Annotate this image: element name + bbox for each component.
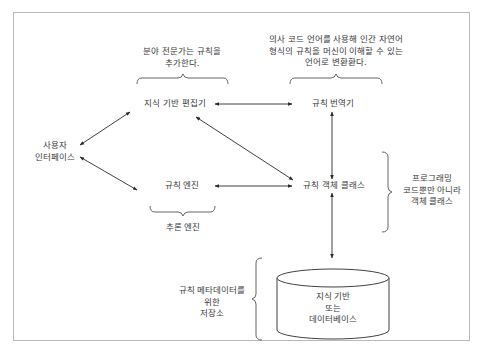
edge-ui-editor (80, 112, 130, 145)
brace-editor-note (137, 74, 228, 84)
inference-engine-label: 추론 엔진 (166, 222, 201, 234)
node-knowledge-editor: 지식 기반 편집기 (144, 98, 205, 110)
edge-ui-engine (80, 157, 137, 190)
brace-storage-note (252, 258, 262, 340)
editor-note: 분야 전문가는 규칙을 추가한다. (143, 46, 220, 69)
brace-object-class-note (382, 152, 392, 232)
node-database: 지식 기반 또는 데이터베이스 (309, 291, 357, 326)
node-user-interface: 사용자 인터페이스 (35, 140, 75, 163)
translator-note: 의사 코드 언어를 사용해 인간 자연어 형식의 규칙을 머신이 이해할 수 있… (269, 34, 403, 69)
object-class-note: 프로그래밍 코드뿐만 아니라 객체 클래스 (403, 173, 462, 208)
edge-editor-objectclass (196, 117, 293, 180)
node-rule-object-class: 규칙 객체 클래스 (303, 180, 364, 192)
node-rule-translator: 규칙 번역기 (312, 98, 355, 110)
brace-inference-engine (150, 206, 215, 216)
brace-translator-note (290, 74, 382, 84)
node-rule-engine: 규칙 엔진 (165, 180, 200, 192)
storage-note: 규칙 메타데이터를 위한 저장소 (179, 285, 246, 320)
